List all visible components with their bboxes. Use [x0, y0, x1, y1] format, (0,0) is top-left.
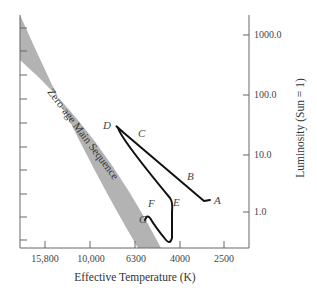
point-label-d: D — [102, 119, 111, 131]
point-label-g: G — [139, 213, 147, 225]
y-axis-title: Luminosity (Sun = 1) — [294, 78, 307, 178]
point-label-c: C — [138, 127, 146, 139]
x-tick-label: 6300 — [126, 253, 146, 264]
point-label-f: F — [147, 197, 155, 209]
main-sequence-label: Zero-age Main Sequence — [45, 86, 121, 182]
y-tick-label: 1.0 — [254, 206, 267, 217]
x-tick-label: 2500 — [214, 253, 234, 264]
x-tick-label: 4000 — [170, 253, 190, 264]
hr-diagram: Zero-age Main Sequence 15,800 10,000 630… — [0, 0, 317, 292]
x-axis-ticks — [45, 241, 224, 248]
x-tick-label: 15,800 — [31, 253, 59, 264]
point-label-a: A — [213, 194, 221, 206]
y-tick-label: 1000.0 — [254, 29, 282, 40]
x-tick-label: 10,000 — [77, 253, 105, 264]
point-label-e: E — [172, 196, 180, 208]
point-label-b: B — [187, 170, 194, 182]
x-axis-title: Effective Temperature (K) — [74, 271, 196, 284]
y-tick-label: 10.0 — [254, 149, 272, 160]
right-axis-ticks — [243, 35, 249, 212]
y-tick-label: 100.0 — [254, 89, 277, 100]
